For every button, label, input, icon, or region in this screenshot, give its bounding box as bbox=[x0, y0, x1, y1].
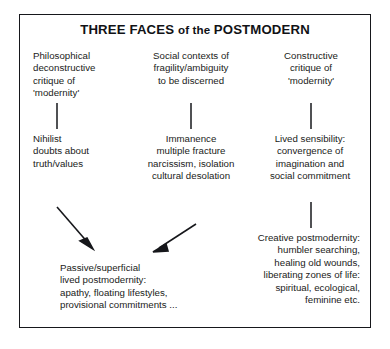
node-lived-sensibility: Lived sensibility: convergence of imagin… bbox=[245, 133, 375, 183]
diagram-title-part-1: THREE FACES bbox=[80, 22, 178, 37]
node-creative-postmodernity: Creative postmodernity: humbler searchin… bbox=[232, 232, 360, 306]
diagram-title-part-2: POSTMODERN bbox=[214, 22, 310, 37]
node-immanence-fracture: Immanence multiple fracture narcissism, … bbox=[124, 133, 258, 183]
node-social-contexts: Social contexts of fragility/ambiguity t… bbox=[131, 50, 251, 87]
diagram-title: THREE FACES of the POSTMODERN bbox=[19, 22, 371, 37]
diagram-title-part-of-the: of the bbox=[178, 23, 214, 36]
diagram-root: THREE FACES of the POSTMODERN Philosophi… bbox=[0, 0, 390, 349]
node-constructive-critique: Constructive critique of 'modernity' bbox=[252, 50, 370, 87]
node-passive-superficial-postmodernity: Passive/superficial lived postmodernity:… bbox=[60, 262, 235, 312]
